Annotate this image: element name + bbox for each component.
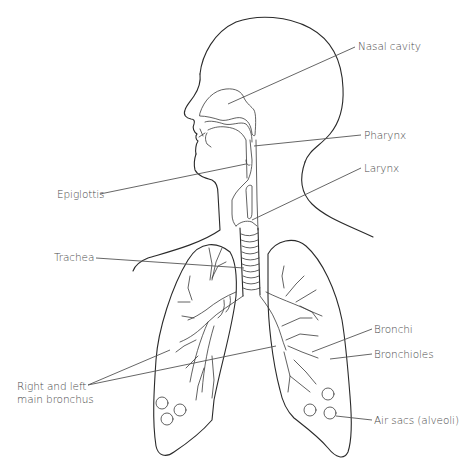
leader-bronchioles <box>330 354 372 359</box>
leader-main-bronchus-left <box>88 346 276 385</box>
leader-bronchi <box>312 329 372 352</box>
label-larynx: Larynx <box>364 162 399 175</box>
label-nasal-cavity: Nasal cavity <box>358 40 421 53</box>
leader-air-sacs <box>336 416 372 420</box>
left-lung <box>260 240 351 456</box>
trachea-shape <box>240 228 260 296</box>
leader-lines <box>88 47 372 420</box>
right-lung <box>154 245 243 456</box>
pharynx-larynx-shape <box>232 140 258 230</box>
label-main-bronchus: Right and left main bronchus <box>17 380 94 405</box>
leader-larynx <box>252 168 361 220</box>
label-trachea: Trachea <box>54 251 94 264</box>
leader-main-bronchus-right <box>88 350 170 385</box>
label-bronchioles: Bronchioles <box>374 348 434 361</box>
leader-pharynx <box>254 135 361 146</box>
label-epiglottis: Epiglottis <box>57 188 104 201</box>
leader-trachea <box>96 258 244 268</box>
label-pharynx: Pharynx <box>364 129 406 142</box>
leader-epiglottis <box>100 164 246 194</box>
label-bronchi: Bronchi <box>374 323 413 336</box>
leader-nasal-cavity <box>228 47 355 104</box>
label-air-sacs: Air sacs (alveoli) <box>374 414 459 427</box>
